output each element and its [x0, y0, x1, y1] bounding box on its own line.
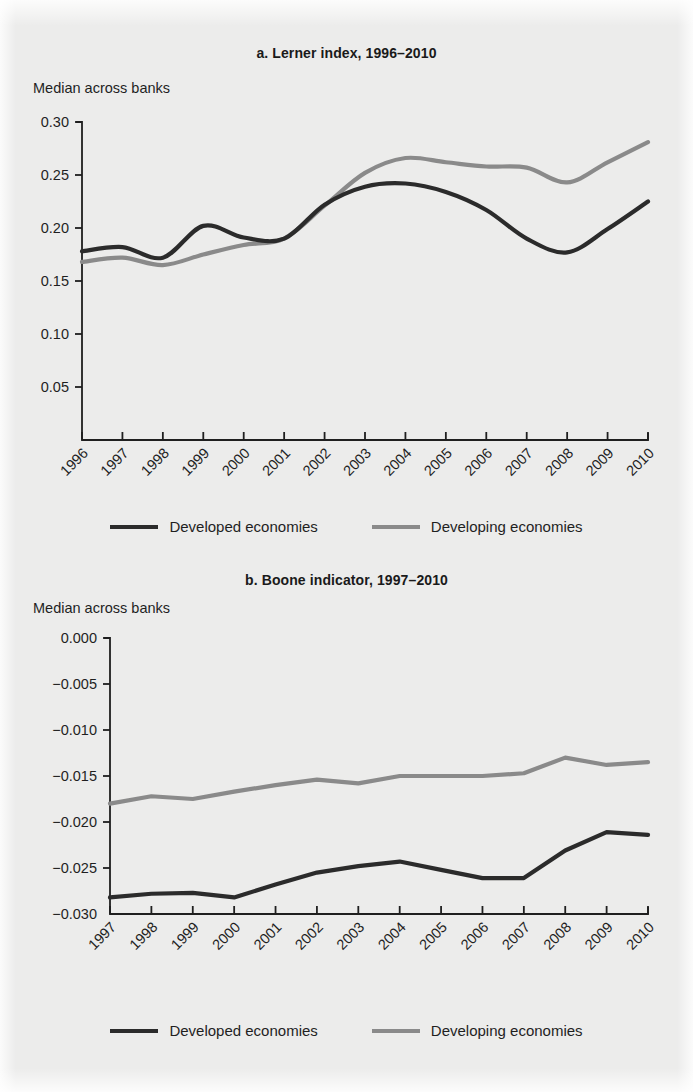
y-tick-label: −0.010: [52, 722, 97, 738]
svg-text:2003: 2003: [340, 445, 374, 479]
figure-page: a. Lerner index, 1996–2010 Median across…: [0, 0, 693, 1092]
axis-frame: [76, 122, 648, 440]
x-tick-label: 2003: [340, 445, 374, 479]
svg-text:1999: 1999: [178, 445, 212, 479]
y-tick-label: 0.30: [41, 114, 69, 130]
legend-item-developed: Developed economies: [110, 518, 317, 535]
legend-label-developing: Developing economies: [431, 1022, 583, 1039]
svg-text:1998: 1998: [138, 445, 172, 479]
legend-swatch-developed-icon: [110, 1029, 158, 1033]
svg-text:2010: 2010: [623, 445, 657, 479]
svg-text:2008: 2008: [542, 445, 576, 479]
y-tick-label: 0.10: [41, 326, 69, 342]
x-tick-label: 2009: [583, 445, 617, 479]
legend-swatch-developing-icon: [372, 525, 420, 529]
legend-item-developed: Developed economies: [110, 1022, 317, 1039]
x-tick-label: 2005: [416, 919, 450, 953]
svg-text:2005: 2005: [416, 919, 450, 953]
y-tick-label: −0.015: [52, 768, 97, 784]
legend-item-developing: Developing economies: [372, 518, 583, 535]
svg-text:2000: 2000: [209, 919, 243, 953]
x-tick-label: 2002: [300, 445, 334, 479]
axis-frame: [104, 638, 648, 914]
panel-lerner-index: a. Lerner index, 1996–2010 Median across…: [0, 0, 693, 556]
x-tick-label: 2002: [292, 919, 326, 953]
svg-text:2001: 2001: [259, 445, 293, 479]
svg-text:2001: 2001: [251, 919, 285, 953]
x-tick-label: 2010: [623, 919, 657, 953]
svg-text:1996: 1996: [57, 445, 91, 479]
svg-text:2009: 2009: [582, 919, 616, 953]
x-tick-label: 1998: [138, 445, 172, 479]
series-line-developing: [82, 142, 648, 265]
svg-text:2002: 2002: [300, 445, 334, 479]
svg-text:2008: 2008: [540, 919, 574, 953]
x-tick-label: 1999: [168, 919, 202, 953]
y-tick-label: −0.020: [52, 814, 97, 830]
x-tick-label: 2005: [421, 445, 455, 479]
x-tick-label: 2006: [457, 919, 491, 953]
x-tick-label: 1999: [178, 445, 212, 479]
x-tick-label: 2009: [582, 919, 616, 953]
y-tick-label: 0.15: [41, 273, 69, 289]
svg-text:2004: 2004: [380, 445, 414, 479]
panel-boone-indicator: b. Boone indicator, 1997–2010 Median acr…: [0, 556, 693, 1092]
x-tick-label: 2004: [380, 445, 414, 479]
x-tick-label: 2004: [375, 919, 409, 953]
svg-text:2000: 2000: [219, 445, 253, 479]
y-tick-label: −0.025: [52, 860, 97, 876]
x-tick-label: 1996: [57, 445, 91, 479]
series-line-developed: [82, 183, 648, 258]
series-line-developing: [110, 758, 648, 804]
svg-text:1999: 1999: [168, 919, 202, 953]
y-tick-label: −0.030: [52, 906, 97, 922]
svg-text:2007: 2007: [502, 445, 536, 479]
x-tick-label: 2008: [542, 445, 576, 479]
svg-text:2007: 2007: [499, 919, 533, 953]
x-tick-label: 2010: [623, 445, 657, 479]
x-tick-label: 2006: [461, 445, 495, 479]
legend-label-developed: Developed economies: [169, 1022, 317, 1039]
x-tick-label: 2007: [499, 919, 533, 953]
svg-text:2010: 2010: [623, 919, 657, 953]
svg-text:2006: 2006: [461, 445, 495, 479]
svg-text:2005: 2005: [421, 445, 455, 479]
y-tick-label: 0.20: [41, 220, 69, 236]
svg-text:2003: 2003: [333, 919, 367, 953]
x-tick-label: 2001: [251, 919, 285, 953]
y-tick-label: 0.25: [41, 167, 69, 183]
panel-b-legend: Developed economies Developing economies: [0, 1022, 693, 1039]
x-tick-label: 1997: [85, 919, 119, 953]
panel-a-legend: Developed economies Developing economies: [0, 518, 693, 535]
y-tick-label: −0.005: [52, 676, 97, 692]
legend-label-developing: Developing economies: [431, 518, 583, 535]
svg-text:1998: 1998: [126, 919, 160, 953]
legend-swatch-developing-icon: [372, 1029, 420, 1033]
y-tick-label: 0.05: [41, 379, 69, 395]
legend-item-developing: Developing economies: [372, 1022, 583, 1039]
y-tick-label: 0.000: [61, 630, 97, 646]
svg-text:1997: 1997: [97, 445, 131, 479]
x-tick-label: 2003: [333, 919, 367, 953]
x-tick-label: 2007: [502, 445, 536, 479]
svg-text:2004: 2004: [375, 919, 409, 953]
svg-text:2002: 2002: [292, 919, 326, 953]
x-tick-label: 1997: [97, 445, 131, 479]
svg-text:1997: 1997: [85, 919, 119, 953]
x-tick-label: 2000: [219, 445, 253, 479]
panel-b-plot: −0.030−0.025−0.020−0.015−0.010−0.0050.00…: [0, 556, 693, 1092]
x-tick-label: 1998: [126, 919, 160, 953]
series-line-developed: [110, 832, 648, 897]
svg-text:2006: 2006: [457, 919, 491, 953]
legend-swatch-developed-icon: [110, 525, 158, 529]
x-tick-label: 2001: [259, 445, 293, 479]
legend-label-developed: Developed economies: [169, 518, 317, 535]
svg-text:2009: 2009: [583, 445, 617, 479]
x-tick-label: 2008: [540, 919, 574, 953]
x-tick-label: 2000: [209, 919, 243, 953]
panel-a-plot: 0.050.100.150.200.250.301996199719981999…: [0, 0, 693, 556]
